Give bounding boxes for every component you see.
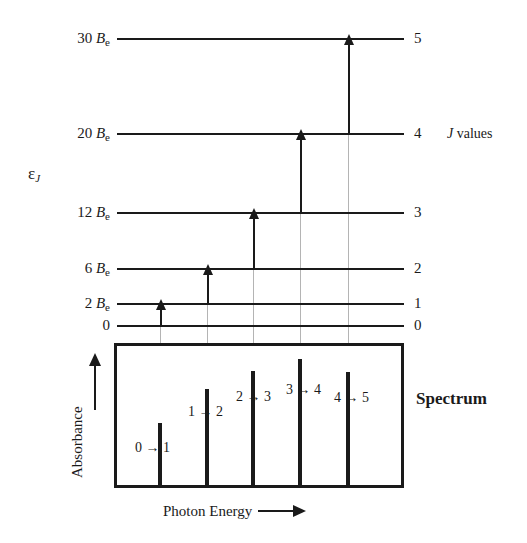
energy-label-j5: 30 Be bbox=[20, 31, 110, 48]
absorbance-axis-label: Absorbance bbox=[70, 406, 85, 478]
j-value-4: 4 bbox=[414, 126, 422, 141]
transition-arrow-3-4-shaft bbox=[300, 139, 302, 214]
energy-label-j3-subscript: e bbox=[105, 210, 110, 222]
transition-arrow-4-5-head bbox=[344, 34, 354, 45]
spectrum-peak-label-1-2: 1 → 2 bbox=[188, 405, 223, 419]
spectrum-peak-3-4 bbox=[298, 359, 302, 485]
energy-level-line-j2 bbox=[117, 268, 404, 270]
energy-label-j1: 2 Be bbox=[20, 296, 110, 313]
spectrum-peak-label-4-5: 4 → 5 bbox=[334, 391, 369, 405]
absorbance-axis-arrow-head bbox=[89, 353, 101, 366]
j-value-5: 5 bbox=[414, 31, 422, 46]
energy-label-j2-text: 6 B bbox=[85, 260, 105, 276]
spectrum-peak-label-2-3: 2 → 3 bbox=[236, 390, 271, 404]
spectrum-peak-4-5 bbox=[346, 372, 350, 485]
energy-label-j0: 0 bbox=[20, 318, 110, 333]
energy-axis-label: εJ bbox=[28, 165, 40, 184]
j-value-3: 3 bbox=[414, 205, 422, 220]
energy-label-j2-subscript: e bbox=[105, 266, 110, 278]
energy-label-j2: 6 Be bbox=[20, 261, 110, 278]
rotational-spectrum-figure: 30 Be 20 Be 12 Be 6 Be 2 Be 0 εJ 5 4 3 2… bbox=[0, 0, 527, 543]
energy-label-j4: 20 Be bbox=[20, 126, 110, 143]
energy-label-j1-text: 2 B bbox=[85, 295, 105, 311]
spectrum-peak-label-3-4: 3 → 4 bbox=[286, 383, 321, 397]
photon-energy-axis-arrow-shaft bbox=[258, 510, 294, 512]
transition-arrow-1-2-shaft bbox=[207, 274, 209, 305]
photon-energy-axis-arrow-head bbox=[293, 505, 306, 517]
energy-label-j1-subscript: e bbox=[105, 301, 110, 313]
absorbance-axis-arrow-shaft bbox=[94, 365, 96, 410]
epsilon-subscript: J bbox=[35, 172, 40, 184]
transition-arrow-2-3-head bbox=[249, 208, 259, 219]
spectrum-peak-label-0-1: 0 → 1 bbox=[135, 441, 170, 455]
energy-level-line-j3 bbox=[117, 212, 404, 214]
j-values-caption: J values bbox=[447, 127, 492, 141]
transition-arrow-0-1-head bbox=[156, 299, 166, 310]
j-value-1: 1 bbox=[414, 296, 422, 311]
transition-arrow-3-4-head bbox=[296, 129, 306, 140]
energy-label-j3-text: 12 B bbox=[77, 204, 105, 220]
guide-line-transition-4-5 bbox=[348, 133, 349, 377]
spectrum-title: Spectrum bbox=[416, 390, 487, 407]
transition-arrow-4-5-shaft bbox=[348, 44, 350, 135]
energy-label-j5-subscript: e bbox=[105, 36, 110, 48]
j-values-caption-text: values bbox=[453, 126, 492, 141]
j-value-0: 0 bbox=[414, 318, 422, 333]
transition-arrow-0-1-shaft bbox=[160, 309, 162, 327]
energy-label-j4-text: 20 B bbox=[77, 125, 105, 141]
energy-level-line-j5 bbox=[117, 38, 404, 40]
transition-arrow-1-2-head bbox=[203, 264, 213, 275]
transition-arrow-2-3-shaft bbox=[253, 218, 255, 270]
energy-level-line-j4 bbox=[117, 133, 404, 135]
energy-label-j4-subscript: e bbox=[105, 131, 110, 143]
energy-label-j3: 12 Be bbox=[20, 205, 110, 222]
energy-label-j0-text: 0 bbox=[103, 317, 111, 333]
photon-energy-axis-label: Photon Energy bbox=[163, 504, 252, 519]
j-value-2: 2 bbox=[414, 261, 422, 276]
energy-label-j5-text: 30 B bbox=[77, 30, 105, 46]
